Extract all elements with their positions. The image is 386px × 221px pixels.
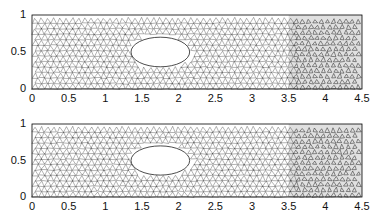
x-tick-label: 0.5	[61, 201, 76, 212]
x-tick-label: 4.5	[354, 201, 369, 212]
x-tick-label: 3.5	[281, 201, 296, 212]
x-tick-label: 4	[322, 201, 328, 212]
y-tick-label: 0.5	[0, 46, 26, 57]
x-tick-label: 4	[322, 93, 328, 104]
obstacle-hole	[131, 146, 190, 175]
x-tick-label: 1	[102, 93, 108, 104]
mesh-plot-bottom: 00.511.522.533.544.500.51	[0, 110, 386, 220]
x-tick-label: 4.5	[354, 93, 369, 104]
x-tick-label: 0.5	[61, 93, 76, 104]
y-tick-label: 0.5	[0, 155, 26, 166]
x-tick-label: 2	[176, 93, 182, 104]
x-tick-label: 3	[249, 201, 255, 212]
y-tick-label: 0	[0, 191, 26, 202]
y-tick-label: 1	[0, 9, 26, 20]
x-tick-label: 1.5	[134, 201, 149, 212]
x-tick-label: 2	[176, 201, 182, 212]
x-tick-label: 0	[29, 201, 35, 212]
x-tick-label: 3	[249, 93, 255, 104]
mesh-plot-top: 00.511.522.533.544.500.51	[0, 0, 386, 110]
x-tick-label: 2.5	[208, 93, 223, 104]
x-tick-label: 2.5	[208, 201, 223, 212]
obstacle-hole	[131, 37, 190, 67]
y-tick-label: 1	[0, 118, 26, 129]
x-tick-label: 1.5	[134, 93, 149, 104]
y-tick-label: 0	[0, 83, 26, 94]
x-tick-label: 0	[29, 93, 35, 104]
x-tick-label: 3.5	[281, 93, 296, 104]
x-tick-label: 1	[102, 201, 108, 212]
